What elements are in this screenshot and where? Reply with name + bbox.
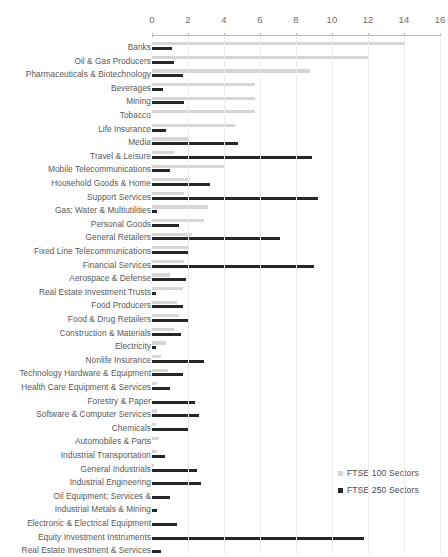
bar-ftse-250 [152, 387, 170, 390]
clipped-title-fragment [0, 0, 448, 2]
bar-ftse-250 [152, 333, 181, 336]
bar-ftse-250 [152, 129, 166, 132]
x-axis-tick-label-4: 4 [221, 14, 226, 25]
grid-line-6 [260, 36, 261, 554]
category-label: Mobile Telecommunications [48, 165, 151, 174]
bar-ftse-250 [152, 47, 172, 50]
bar-ftse-250 [152, 101, 184, 104]
grid-line-12 [368, 36, 369, 554]
category-label: Industrial Transportation [61, 450, 151, 459]
category-label: Chemicals [112, 423, 151, 432]
bar-ftse-250 [152, 251, 188, 254]
category-label: Pharmaceuticals & Biotechnology [26, 70, 151, 79]
bar-ftse-250 [152, 455, 165, 458]
bar-ftse-250 [152, 319, 188, 322]
legend-swatch-icon-ftse-250 [338, 488, 343, 493]
category-label: Oil & Gas Producers [74, 56, 151, 65]
bar-ftse-100 [152, 192, 184, 195]
bar-ftse-100 [152, 273, 170, 276]
legend-item-ftse-250: FTSE 250 Sectors [338, 483, 444, 497]
category-label: Financial Services [83, 260, 151, 269]
category-label: Food & Drug Retailers [68, 314, 151, 323]
bar-ftse-100 [152, 260, 184, 263]
bar-ftse-250 [152, 523, 177, 526]
bar-ftse-250 [152, 61, 174, 64]
category-label: Software & Computer Services [36, 410, 151, 419]
category-label: Real Estate Investment Trusts [39, 287, 151, 296]
bar-ftse-100 [152, 83, 255, 86]
category-label: Nonlife Insurance [86, 355, 151, 364]
bar-ftse-100 [152, 205, 208, 208]
category-label: Gas; Water & Multiutilities [55, 206, 151, 215]
bar-ftse-250 [152, 169, 170, 172]
bar-ftse-100 [152, 246, 188, 249]
bar-ftse-100 [152, 219, 204, 222]
bar-ftse-250 [152, 183, 210, 186]
bar-ftse-100 [152, 382, 157, 385]
category-label: Real Estate Investment & Services [22, 546, 151, 555]
bar-ftse-100 [152, 151, 174, 154]
category-label: Tobacco [120, 110, 151, 119]
bar-ftse-250 [152, 265, 314, 268]
bar-ftse-100 [152, 355, 161, 358]
bar-ftse-100 [152, 341, 166, 344]
x-axis-tick-label-16: 16 [435, 14, 446, 25]
category-label: Mining [126, 97, 151, 106]
legend-item-ftse-100: FTSE 100 Sectors [338, 466, 444, 480]
bar-ftse-100 [152, 301, 177, 304]
category-label: Food Producers [91, 301, 151, 310]
chart-legend: FTSE 100 Sectors FTSE 250 Sectors [338, 466, 444, 500]
category-label: Equity Investment Instruments [38, 532, 151, 541]
legend-label-ftse-250: FTSE 250 Sectors [347, 485, 419, 495]
bar-ftse-100 [152, 97, 255, 100]
category-label: General Industrials [80, 464, 151, 473]
category-label: Support Services [87, 192, 151, 201]
bar-ftse-250 [152, 156, 312, 159]
grid-line-16 [440, 36, 441, 554]
category-label: Industrial Metals & Mining [55, 505, 151, 514]
bar-ftse-100 [152, 69, 310, 72]
bar-ftse-100 [152, 328, 174, 331]
legend-label-ftse-100: FTSE 100 Sectors [347, 468, 419, 478]
bar-ftse-250 [152, 346, 156, 349]
category-label: Forestry & Paper [87, 396, 151, 405]
bar-ftse-100 [152, 423, 156, 426]
category-label: Aerospace & Defense [69, 274, 151, 283]
bar-ftse-250 [152, 428, 188, 431]
x-axis-tick-mark-0 [152, 33, 153, 37]
bar-ftse-250 [152, 210, 157, 213]
category-label: Oil Equipment; Services & [53, 491, 151, 500]
bar-ftse-100 [152, 137, 188, 140]
bar-ftse-250 [152, 142, 238, 145]
bar-ftse-250 [152, 197, 318, 200]
bar-ftse-250 [152, 550, 161, 553]
category-label: Banks [128, 42, 151, 51]
category-label: Electronic & Electrical Equipment [27, 518, 151, 527]
category-label: Electricity [115, 342, 151, 351]
bar-ftse-100 [152, 287, 183, 290]
bar-ftse-100 [152, 233, 192, 236]
bar-ftse-250 [152, 224, 179, 227]
legend-swatch-icon-ftse-100 [338, 471, 343, 476]
grid-line-8 [296, 36, 297, 554]
ftse-sector-bar-chart: 0246810121416 BanksOil & Gas ProducersPh… [0, 0, 448, 557]
category-label: Media [128, 138, 151, 147]
category-label: Automobiles & Parts [75, 437, 151, 446]
category-label: Fixed Line Telecommunications [34, 246, 151, 255]
category-label: Industrial Engineering [70, 478, 151, 487]
bar-ftse-250 [152, 496, 170, 499]
bar-ftse-100 [152, 124, 235, 127]
category-label: Health Care Equipment & Services [21, 382, 151, 391]
grid-line-4 [224, 36, 225, 554]
category-label: Life Insurance [98, 124, 151, 133]
bar-ftse-250 [152, 414, 199, 417]
bar-ftse-100 [152, 437, 159, 440]
bar-ftse-250 [152, 360, 204, 363]
x-axis-tick-label-14: 14 [399, 14, 410, 25]
x-axis-tick-label-6: 6 [257, 14, 262, 25]
bar-ftse-100 [152, 369, 168, 372]
x-axis-tick-label-12: 12 [363, 14, 374, 25]
bar-ftse-250 [152, 88, 163, 91]
bar-ftse-100 [152, 178, 190, 181]
grid-line-14 [404, 36, 405, 554]
